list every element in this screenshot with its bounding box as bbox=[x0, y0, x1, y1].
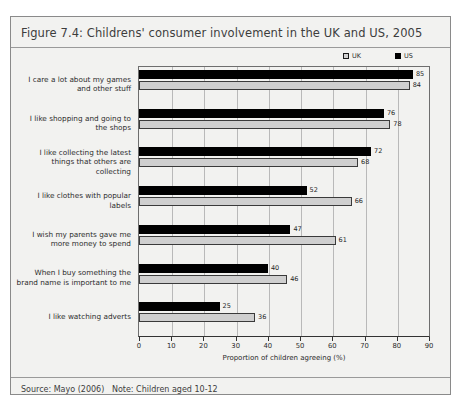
bar-value-uk: 84 bbox=[413, 81, 421, 90]
bar-value-uk: 61 bbox=[339, 236, 347, 245]
legend-label-us: US bbox=[404, 52, 413, 60]
x-axis-tick-label: 40 bbox=[264, 342, 273, 350]
x-axis: Proportion of children agreeing (%) 0102… bbox=[138, 337, 430, 371]
bar-us[interactable] bbox=[139, 302, 220, 311]
x-axis-tick bbox=[429, 337, 430, 341]
x-axis-tick bbox=[268, 337, 269, 341]
category-label-line: the shops bbox=[13, 123, 131, 133]
bar-us[interactable] bbox=[139, 147, 371, 156]
x-axis-title: Proportion of children agreeing (%) bbox=[138, 354, 430, 362]
bar-group: 4046 bbox=[139, 261, 429, 300]
x-axis-tick-label: 0 bbox=[137, 342, 141, 350]
bar-value-uk: 78 bbox=[393, 120, 401, 129]
bar-value-uk: 66 bbox=[355, 197, 363, 206]
bar-value-us: 40 bbox=[271, 264, 279, 273]
bar-value-us: 25 bbox=[223, 302, 231, 311]
category-label-column: I care a lot about my gamesand other stu… bbox=[11, 66, 138, 337]
category-label: I like watching adverts bbox=[13, 312, 131, 322]
bar-uk[interactable] bbox=[139, 197, 352, 206]
bar-value-uk: 46 bbox=[290, 275, 298, 284]
x-axis-tick-label: 50 bbox=[296, 342, 305, 350]
bar-uk[interactable] bbox=[139, 81, 410, 90]
category-label: When I buy something thebrand name is im… bbox=[13, 268, 131, 287]
bar-uk[interactable] bbox=[139, 313, 255, 322]
x-axis-tick-label: 80 bbox=[392, 342, 401, 350]
category-label-line: I like watching adverts bbox=[13, 312, 131, 322]
bar-value-uk: 68 bbox=[361, 158, 369, 167]
chart-legend: UK US bbox=[11, 48, 450, 66]
bar-us[interactable] bbox=[139, 225, 290, 234]
x-axis-tick bbox=[236, 337, 237, 341]
legend-swatch-uk-icon bbox=[343, 53, 349, 59]
bar-value-us: 47 bbox=[293, 225, 301, 234]
category-label-line: more money to spend bbox=[13, 239, 131, 249]
category-label: I like shopping and going tothe shops bbox=[13, 114, 131, 133]
x-axis-tick bbox=[365, 337, 366, 341]
x-axis-tick bbox=[332, 337, 333, 341]
x-axis-tick bbox=[171, 337, 172, 341]
plot-area: 8584767872685266476140462536 bbox=[138, 66, 430, 337]
bar-us[interactable] bbox=[139, 186, 307, 195]
x-axis-tick-label: 10 bbox=[167, 342, 176, 350]
category-label: I like collecting the latestthings that … bbox=[13, 148, 131, 177]
legend-item-us: US bbox=[395, 52, 413, 60]
bar-uk[interactable] bbox=[139, 120, 390, 129]
category-label-line: I like shopping and going to bbox=[13, 114, 131, 124]
category-label-line: and other stuff bbox=[13, 84, 131, 94]
bar-us[interactable] bbox=[139, 264, 268, 273]
bar-group: 2536 bbox=[139, 299, 429, 338]
category-label-line: I wish my parents gave me bbox=[13, 230, 131, 240]
bar-uk[interactable] bbox=[139, 158, 358, 167]
category-label-line: I like clothes with popular bbox=[13, 191, 131, 201]
x-axis-tick bbox=[300, 337, 301, 341]
bar-group: 5266 bbox=[139, 183, 429, 222]
bar-group: 7678 bbox=[139, 106, 429, 145]
bar-group: 7268 bbox=[139, 144, 429, 183]
x-axis-tick-label: 60 bbox=[328, 342, 337, 350]
bar-group: 8584 bbox=[139, 67, 429, 106]
x-axis-tick bbox=[397, 337, 398, 341]
category-label-line: things that others are bbox=[13, 157, 131, 167]
x-axis-tick bbox=[203, 337, 204, 341]
bar-value-us: 76 bbox=[387, 109, 395, 118]
legend-swatch-us-icon bbox=[395, 53, 401, 59]
x-axis-tick-label: 30 bbox=[231, 342, 240, 350]
bar-us[interactable] bbox=[139, 109, 384, 118]
category-label: I care a lot about my gamesand other stu… bbox=[13, 75, 131, 94]
legend-item-uk: UK bbox=[343, 52, 361, 60]
x-axis-tick-label: 20 bbox=[199, 342, 208, 350]
category-label-line: brand name is important to me bbox=[13, 278, 131, 288]
category-label: I like clothes with popularlabels bbox=[13, 191, 131, 210]
bar-value-uk: 36 bbox=[258, 313, 266, 322]
figure-source-note: Source: Mayo (2006) Note: Children aged … bbox=[11, 378, 450, 394]
figure-title: Figure 7.4: Childrens' consumer involvem… bbox=[11, 17, 450, 47]
legend-label-uk: UK bbox=[352, 52, 361, 60]
bar-value-us: 52 bbox=[310, 186, 318, 195]
bar-uk[interactable] bbox=[139, 275, 287, 284]
category-label: I wish my parents gave memore money to s… bbox=[13, 230, 131, 249]
category-label-line: I care a lot about my games bbox=[13, 75, 131, 85]
category-label-line: labels bbox=[13, 201, 131, 211]
bar-value-us: 72 bbox=[374, 147, 382, 156]
bar-uk[interactable] bbox=[139, 236, 336, 245]
category-label-line: When I buy something the bbox=[13, 268, 131, 278]
x-axis-tick bbox=[139, 337, 140, 341]
bar-us[interactable] bbox=[139, 70, 413, 79]
figure-container: Figure 7.4: Childrens' consumer involvem… bbox=[10, 16, 451, 395]
x-axis-tick-label: 90 bbox=[425, 342, 434, 350]
x-axis-tick-label: 70 bbox=[360, 342, 369, 350]
category-label-line: I like collecting the latest bbox=[13, 148, 131, 158]
category-label-line: collecting bbox=[13, 167, 131, 177]
bar-group: 4761 bbox=[139, 222, 429, 261]
bar-value-us: 85 bbox=[416, 70, 424, 79]
plot-area-wrapper: I care a lot about my gamesand other stu… bbox=[11, 66, 450, 377]
